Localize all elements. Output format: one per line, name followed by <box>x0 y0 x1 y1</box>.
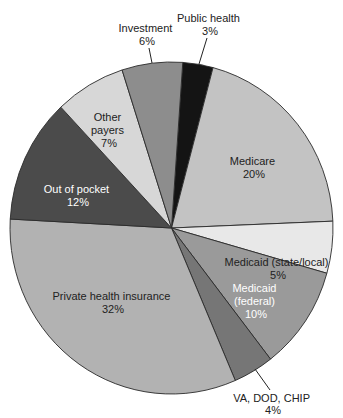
leader-line-investment <box>149 48 152 63</box>
leader-line-va-dod-chip <box>255 369 270 390</box>
label-public-health: Public health 3% <box>177 12 243 37</box>
label-investment: Investment 6% <box>119 22 176 47</box>
leader-line-public-health <box>199 38 207 64</box>
pie-chart: Public health 3% Medicare 20% Medicaid (… <box>0 0 343 418</box>
label-va-dod-chip: VA, DOD, CHIP 4% <box>233 392 313 416</box>
pie-slices <box>10 62 333 394</box>
